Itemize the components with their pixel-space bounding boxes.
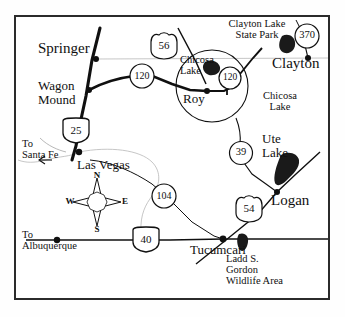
town-label-roy: Roy <box>183 92 205 106</box>
compass-label-south: S <box>91 225 103 235</box>
town-label-logan: Logan <box>271 193 309 209</box>
shield-label-nm39[interactable]: 39 <box>230 146 252 157</box>
compass-label-west: W <box>64 197 76 207</box>
place-label-chicosa-lake-inset: Chicosa Lake <box>180 54 214 76</box>
town-label-wagon-mound: Wagon Mound <box>38 79 76 107</box>
shield-label-i25[interactable]: 25 <box>64 124 88 136</box>
compass-label-east: E <box>119 197 131 207</box>
place-label-clayton-lake-state-park: Clayton Lake State Park <box>211 18 303 40</box>
compass-rose <box>73 178 121 226</box>
town-label-clayton: Clayton <box>272 56 320 72</box>
offmap-label-albuquerque: To Albuquerque <box>22 229 77 251</box>
place-label-chicosa-lake: Chicosa Lake <box>253 90 307 112</box>
town-label-springer: Springer <box>38 41 90 57</box>
shield-label-us54[interactable]: 54 <box>237 202 261 214</box>
town-label-las-vegas: Las Vegas <box>77 158 130 172</box>
shield-label-i40[interactable]: 40 <box>134 233 158 245</box>
town-dot-springer <box>93 56 99 62</box>
compass-label-north: N <box>91 171 103 181</box>
compass-star-inner <box>87 192 107 212</box>
place-label-ladd-gordon-wildlife-area: Ladd S. Gordon Wildlife Area <box>226 253 283 286</box>
town-dot-wagonmound <box>86 87 92 93</box>
route-clayton-lake-access <box>240 48 262 74</box>
shield-label-nm104[interactable]: 104 <box>152 190 176 201</box>
map-container: Springer Wagon Mound Clayton Roy Las Veg… <box>0 0 345 317</box>
town-dot-lasvegas <box>76 149 82 155</box>
shield-label-nm120-east[interactable]: 120 <box>219 72 241 82</box>
shield-label-us56[interactable]: 56 <box>152 39 176 51</box>
offmap-label-santa-fe: To Santa Fe <box>22 138 58 160</box>
place-label-ute-lake: Ute Lake <box>262 132 288 160</box>
shield-label-nm370[interactable]: 370 <box>295 29 319 40</box>
shield-label-nm120-west[interactable]: 120 <box>130 70 154 81</box>
